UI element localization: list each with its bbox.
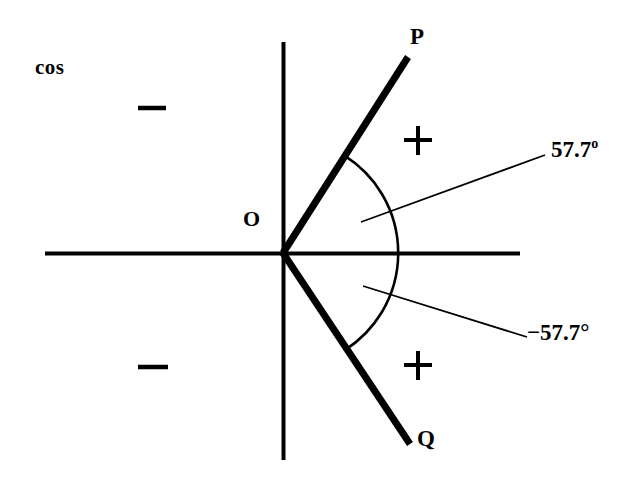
angle-label-negative: −57.7°	[527, 321, 590, 344]
ray-endpoint-label-q: Q	[417, 427, 435, 450]
sign-plus-lower	[404, 351, 432, 380]
leader-line-positive	[361, 155, 545, 222]
degree-icon: o	[591, 136, 598, 151]
cosine-sign-diagram: cos O P Q 57.7o −57.7°	[0, 0, 632, 482]
leader-line-negative	[363, 286, 527, 337]
function-label-cos: cos	[35, 57, 65, 78]
origin-label: O	[243, 208, 260, 230]
sign-plus-upper	[404, 126, 432, 155]
diagram-canvas	[0, 0, 632, 482]
angle-label-positive-value: 57.7	[551, 137, 591, 162]
ray-endpoint-label-p: P	[410, 25, 424, 48]
angle-label-positive: 57.7o	[551, 138, 598, 161]
